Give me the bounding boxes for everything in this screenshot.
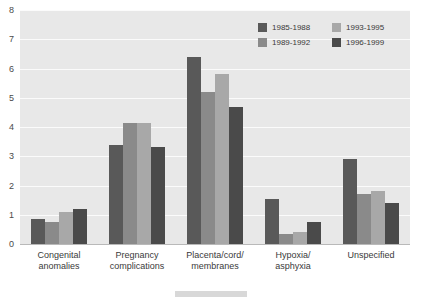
bar-group [109,10,165,244]
bar [151,147,165,244]
x-tick-label: Congenital anomalies [37,250,80,272]
bar [307,222,321,244]
bar [201,92,215,244]
bar [357,194,371,244]
legend-label: 1996-1999 [346,39,384,47]
bar [343,159,357,244]
y-tick-label: 1 [9,210,14,219]
bar [293,232,307,244]
bar [31,219,45,244]
bar [137,123,151,244]
legend-swatch [332,23,341,32]
bar [109,145,123,244]
x-tick-label: Hypoxia/ asphyxia [275,250,311,272]
bar [45,222,59,244]
bar [59,212,73,244]
bar [123,123,137,244]
x-tick-label: Pregnancy complications [110,250,165,272]
y-tick-label: 6 [9,64,14,73]
bar [279,234,293,244]
legend-label: 1985-1988 [272,24,310,32]
y-tick-label: 0 [9,240,14,249]
y-tick-label: 4 [9,123,14,132]
y-tick-label: 5 [9,93,14,102]
bar [215,74,229,244]
y-tick-label: 7 [9,35,14,44]
legend-item: 1996-1999 [332,38,406,47]
y-axis: 876543210 [0,0,20,260]
bar-chart: 876543210 Congenital anomaliesPregnancy … [0,0,423,301]
legend-item: 1989-1992 [258,38,330,47]
x-axis-baseline [20,244,410,245]
legend-label: 1993-1995 [346,24,384,32]
bar-group [31,10,87,244]
bar [371,191,385,244]
legend-swatch [332,38,341,47]
legend-label: 1989-1992 [272,39,310,47]
legend: 1985-19881993-19951989-19921996-1999 [258,20,408,50]
x-axis: Congenital anomaliesPregnancy complicati… [20,250,410,284]
bar [73,209,87,244]
bar-group [187,10,243,244]
bar [229,107,243,244]
bottom-artifact-strip [175,291,247,297]
bar [187,57,201,244]
x-tick-label: Placenta/cord/ membranes [186,250,244,272]
legend-swatch [258,38,267,47]
legend-item: 1985-1988 [258,23,330,32]
legend-item: 1993-1995 [332,23,406,32]
bar [265,199,279,244]
x-tick-label: Unspecified [347,250,394,261]
y-tick-label: 8 [9,6,14,15]
bar [385,203,399,244]
legend-swatch [258,23,267,32]
y-tick-label: 2 [9,181,14,190]
y-tick-label: 3 [9,152,14,161]
